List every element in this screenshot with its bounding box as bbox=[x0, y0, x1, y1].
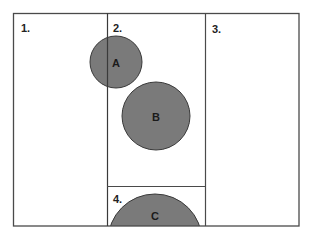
circle-c-label: C bbox=[151, 210, 159, 222]
zone-2-label: 2. bbox=[113, 22, 122, 34]
zone-1-label: 1. bbox=[21, 22, 30, 34]
circle-b-label: B bbox=[152, 111, 160, 123]
circle-a-label: A bbox=[112, 57, 120, 69]
zone-diagram: 1. 2. 3. 4. A B C bbox=[0, 0, 310, 239]
zone-4-label: 4. bbox=[113, 193, 122, 205]
zone-3-label: 3. bbox=[212, 23, 221, 35]
